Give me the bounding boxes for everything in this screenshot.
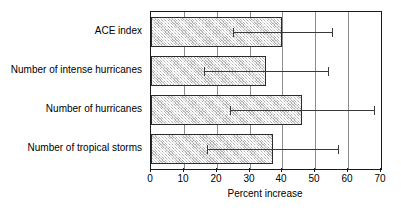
error-bar-cap-low <box>207 145 208 154</box>
x-axis-title: Percent increase <box>150 188 380 199</box>
x-tick-0 <box>150 168 151 172</box>
gridline-40 <box>282 12 283 169</box>
gridline-60 <box>348 12 349 169</box>
x-tick-40 <box>281 168 282 172</box>
x-tick-label: 60 <box>332 173 362 185</box>
y-axis-label: Number of hurricanes <box>0 103 142 114</box>
x-tick-label: 20 <box>201 173 231 185</box>
x-tick-label: 0 <box>135 173 165 185</box>
gridline-50 <box>315 12 316 169</box>
error-bar-line <box>230 110 374 111</box>
x-tick-label: 10 <box>168 173 198 185</box>
plot-area <box>150 11 382 170</box>
y-axis-category-labels: ACE indexNumber of intense hurricanesNum… <box>0 11 146 168</box>
x-tick-label: 40 <box>266 173 296 185</box>
error-bar-cap-low <box>233 28 234 37</box>
error-bar-cap-high <box>338 145 339 154</box>
error-bar-cap-high <box>374 106 375 115</box>
y-axis-label: Number of intense hurricanes <box>0 64 142 75</box>
error-bar-line <box>204 71 328 72</box>
x-tick-label: 70 <box>365 173 395 185</box>
x-tick-label: 30 <box>234 173 264 185</box>
error-bar-cap-high <box>332 28 333 37</box>
plot-inner <box>151 12 381 169</box>
x-tick-50 <box>314 168 315 172</box>
x-tick-20 <box>216 168 217 172</box>
x-tick-30 <box>249 168 250 172</box>
x-tick-label: 50 <box>299 173 329 185</box>
error-bar-line <box>207 149 338 150</box>
x-tick-70 <box>380 168 381 172</box>
error-bar-cap-high <box>328 67 329 76</box>
x-tick-60 <box>347 168 348 172</box>
bar-chart-figure: ACE indexNumber of intense hurricanesNum… <box>0 0 401 212</box>
error-bar-cap-low <box>230 106 231 115</box>
y-axis-label: Number of tropical storms <box>0 142 142 153</box>
error-bar-line <box>233 32 332 33</box>
error-bar-cap-low <box>204 67 205 76</box>
x-tick-10 <box>183 168 184 172</box>
y-axis-label: ACE index <box>0 25 142 36</box>
